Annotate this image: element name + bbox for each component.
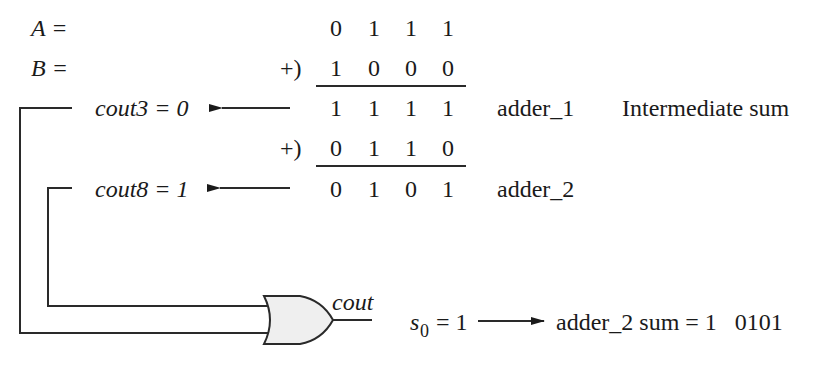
a-digit-0: 1 [442, 15, 454, 41]
s0-value: = 1 [430, 309, 468, 335]
row-sum2: cout8 = 1 0 1 0 1 adder_2 [95, 176, 574, 202]
cout-label: cout [332, 289, 375, 315]
corr-digit-3: 0 [330, 135, 342, 161]
sum1-digit-0: 1 [442, 95, 454, 121]
label-a: A = [29, 15, 67, 41]
a-digit-3: 0 [330, 15, 342, 41]
corr-digit-0: 0 [442, 135, 454, 161]
adder-1-label: adder_1 [497, 95, 574, 121]
cout8-label: cout8 = 1 [95, 176, 189, 202]
b-digit-2: 0 [368, 55, 380, 81]
label-b: B = [31, 55, 68, 81]
a-digit-1: 1 [405, 15, 417, 41]
sum2-digit-2: 1 [368, 176, 380, 202]
row-b: B = +) 1 0 0 0 [31, 55, 466, 86]
a-digit-2: 1 [368, 15, 380, 41]
plus-operator-2: +) [280, 135, 302, 161]
row-a: A = 0 1 1 1 [29, 15, 454, 41]
sum1-digit-1: 1 [405, 95, 417, 121]
row-sum1: cout3 = 0 1 1 1 1 adder_1 Intermediate s… [95, 95, 790, 121]
sum2-digit-3: 0 [330, 176, 342, 202]
adder-2-label: adder_2 [497, 176, 574, 202]
row-correction: +) 0 1 1 0 [280, 135, 466, 166]
bcd-adder-diagram: A = 0 1 1 1 B = +) 1 0 0 0 cout3 = 0 1 1… [0, 0, 835, 367]
s0-result: s 0 = 1 adder_2 sum = 1 0101 [410, 309, 783, 341]
plus-operator-1: +) [280, 55, 302, 81]
sum1-digit-3: 1 [330, 95, 342, 121]
cout3-label: cout3 = 0 [95, 95, 189, 121]
intermediate-sum-label: Intermediate sum [622, 95, 790, 121]
b-digit-3: 1 [330, 55, 342, 81]
cout8-wire [48, 188, 270, 306]
sum1-digit-2: 1 [368, 95, 380, 121]
b-digit-1: 0 [405, 55, 417, 81]
corr-digit-1: 1 [405, 135, 417, 161]
corr-digit-2: 1 [368, 135, 380, 161]
sum2-digit-0: 1 [442, 176, 454, 202]
adder-2-sum-result: adder_2 sum = 1 0101 [556, 309, 783, 335]
b-digit-0: 0 [442, 55, 454, 81]
s0-symbol: s [410, 309, 419, 335]
or-gate-icon [264, 296, 333, 344]
s0-subscript: 0 [420, 321, 429, 341]
sum2-digit-1: 0 [405, 176, 417, 202]
cout3-wire [20, 108, 270, 333]
